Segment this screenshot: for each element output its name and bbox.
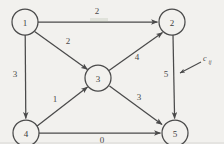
edge-1-4 — [25, 35, 26, 119]
node-5-label: 5 — [173, 129, 178, 139]
cij-pointer-arrow — [180, 62, 201, 73]
node-4-label: 4 — [24, 129, 29, 139]
edge-weight-3-2: 4 — [135, 52, 140, 62]
node-3-label: 3 — [96, 74, 101, 84]
edge-weight-4-3: 1 — [53, 94, 58, 104]
node-1-label: 1 — [23, 18, 28, 28]
node-5[interactable]: 5 — [162, 120, 188, 144]
node-3[interactable]: 3 — [85, 65, 111, 91]
network-diagram-figure: 1 2 3 4 5 2 2 3 4 1 — [0, 0, 224, 144]
edge-weight-1-2: 2 — [95, 6, 100, 16]
cij-annotation: c ij — [180, 54, 212, 74]
cij-label-subscript: ij — [209, 59, 213, 65]
node-1[interactable]: 1 — [12, 9, 38, 35]
edge-weight-4-5: 0 — [100, 135, 105, 144]
edge-3-5 — [110, 86, 163, 125]
node-2-label: 2 — [170, 18, 175, 28]
edge-weight-2-5: 5 — [164, 69, 169, 79]
node-4[interactable]: 4 — [13, 120, 39, 144]
cij-label-main: c — [203, 54, 207, 63]
edge-4-3 — [37, 87, 88, 127]
edge-weight-1-4: 3 — [13, 69, 18, 79]
node-2[interactable]: 2 — [159, 9, 185, 35]
edge-2-5 — [173, 35, 175, 119]
edge-1-3 — [35, 31, 88, 69]
edge-weight-3-5: 3 — [137, 92, 142, 102]
diagram-canvas: 1 2 3 4 5 2 2 3 4 1 — [0, 0, 224, 144]
edge-weight-1-3: 2 — [66, 36, 71, 46]
